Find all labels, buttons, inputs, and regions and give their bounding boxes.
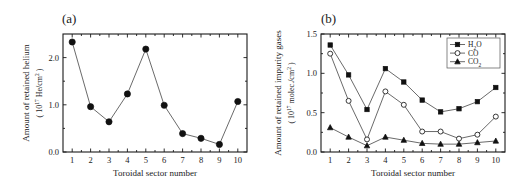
data-point	[346, 98, 351, 103]
data-point	[198, 135, 204, 141]
series-CO2	[327, 125, 498, 148]
x-tick-label: 7	[438, 155, 442, 165]
x-tick-label: 8	[199, 155, 203, 165]
x-tick-label: 5	[402, 155, 406, 165]
legend-marker	[455, 42, 459, 46]
panel-label: (a)	[62, 11, 76, 26]
data-point	[493, 138, 499, 143]
series-retained helium	[69, 39, 241, 148]
data-point	[235, 98, 241, 104]
data-point	[383, 66, 387, 70]
y-axis-title-line1: Amount of retained impurity gases	[273, 30, 283, 156]
data-point	[328, 43, 332, 47]
x-tick-label: 4	[383, 155, 388, 165]
y-tick-label: 0.0	[306, 147, 317, 157]
data-point	[143, 46, 149, 52]
data-point	[88, 104, 94, 110]
x-tick-label: 1	[70, 155, 74, 165]
data-point	[383, 89, 388, 94]
data-point	[365, 107, 369, 111]
x-axis-title: Toroidal sector number	[371, 168, 455, 178]
x-tick-label: 5	[144, 155, 148, 165]
x-tick-label: 7	[180, 155, 184, 165]
data-point	[457, 136, 462, 141]
x-tick-label: 10	[234, 155, 243, 165]
y-tick-label: 2.0	[48, 53, 59, 63]
data-point	[401, 102, 406, 107]
x-tick-label: 10	[492, 155, 501, 165]
chart-a: (a)123456789100.01.02.0Toroidal sector n…	[0, 0, 259, 189]
x-tick-label: 6	[162, 155, 166, 165]
unit-close: )	[287, 62, 296, 67]
x-axis-title: Toroidal sector number	[113, 168, 197, 178]
data-point	[106, 119, 112, 125]
data-point	[365, 137, 370, 142]
y-tick-label: 0.0	[48, 147, 59, 157]
data-point	[346, 134, 352, 139]
data-point	[180, 130, 186, 136]
legend-label-base: CO	[468, 57, 479, 66]
data-point	[216, 141, 222, 147]
data-point	[475, 99, 479, 103]
data-point	[493, 114, 498, 119]
y-axis-title-line2: ( 1017 He/cm2 )	[34, 68, 44, 117]
y-axis-title-line1: Amount of retained helium	[21, 44, 31, 142]
x-tick-label: 4	[125, 155, 130, 165]
data-point	[438, 110, 442, 114]
figure-container: (a)123456789100.01.02.0Toroidal sector n…	[0, 0, 518, 189]
y-tick-label: 1.0	[48, 100, 59, 110]
y-tick-label: 1.0	[306, 68, 317, 78]
data-point	[327, 125, 333, 130]
data-point	[124, 91, 130, 97]
x-tick-label: 1	[328, 155, 332, 165]
panel-b: (b)123456789100.00.51.01.5Toroidal secto…	[259, 0, 518, 189]
y-tick-label: 0.5	[306, 108, 317, 118]
data-point	[161, 102, 167, 108]
data-point	[69, 39, 75, 45]
unit-species: molec./cm	[287, 69, 296, 105]
unit-prefix: ( 10	[35, 105, 44, 118]
legend-marker	[455, 51, 460, 56]
data-point	[328, 51, 333, 56]
y-tick-label: 1.5	[306, 29, 317, 39]
unit-prefix: ( 10	[287, 111, 296, 124]
plot-frame	[63, 34, 247, 152]
unit-species: He/cm	[35, 75, 44, 99]
y-axis-title-line2: ( 1017 molec./cm2 )	[286, 62, 296, 123]
x-tick-label: 3	[365, 155, 369, 165]
data-point	[383, 134, 389, 139]
x-tick-label: 9	[475, 155, 479, 165]
series-line	[330, 128, 496, 146]
x-tick-label: 8	[457, 155, 461, 165]
panel-label: (b)	[321, 11, 336, 26]
unit-close: )	[35, 68, 44, 73]
data-point	[346, 73, 350, 77]
series-line	[72, 42, 238, 144]
x-tick-label: 2	[88, 155, 92, 165]
data-point	[475, 132, 480, 137]
data-point	[420, 98, 424, 102]
x-tick-label: 3	[107, 155, 111, 165]
x-tick-label: 9	[217, 155, 221, 165]
panel-a: (a)123456789100.01.02.0Toroidal sector n…	[0, 0, 259, 189]
data-point	[420, 129, 425, 134]
data-point	[457, 107, 461, 111]
data-point	[402, 80, 406, 84]
x-tick-label: 2	[346, 155, 350, 165]
data-point	[438, 129, 443, 134]
x-tick-label: 6	[420, 155, 424, 165]
legend-label-sub: 2	[478, 62, 481, 68]
data-point	[364, 143, 370, 148]
chart-b: (b)123456789100.00.51.01.5Toroidal secto…	[259, 0, 518, 189]
data-point	[494, 85, 498, 89]
